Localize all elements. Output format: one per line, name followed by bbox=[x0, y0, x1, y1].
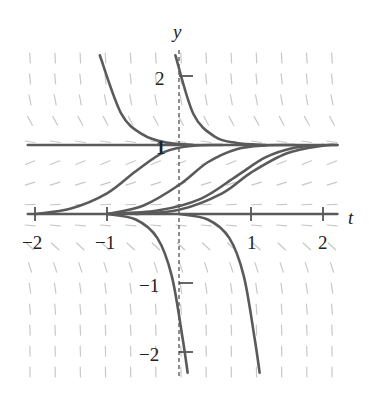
slope-mark bbox=[277, 161, 286, 165]
slope-mark bbox=[278, 243, 285, 250]
x-axis-label: t bbox=[348, 208, 353, 227]
slope-mark bbox=[201, 182, 211, 185]
slope-mark bbox=[205, 95, 207, 105]
slope-mark bbox=[76, 161, 85, 165]
slope-mark bbox=[181, 304, 182, 314]
solution-curve bbox=[136, 145, 338, 214]
slope-mark bbox=[331, 95, 333, 105]
slope-mark bbox=[306, 304, 307, 314]
slope-mark bbox=[28, 263, 31, 273]
slope-mark bbox=[231, 74, 232, 84]
slope-mark bbox=[103, 116, 108, 125]
slope-mark bbox=[176, 141, 186, 142]
slope-mark bbox=[176, 225, 186, 226]
slope-mark bbox=[277, 182, 287, 185]
slope-mark bbox=[230, 263, 233, 273]
slope-mark bbox=[30, 74, 31, 84]
slope-mark bbox=[231, 283, 232, 293]
slope-mark bbox=[230, 95, 232, 105]
slope-field-plot bbox=[0, 0, 369, 396]
slope-mark bbox=[54, 263, 57, 273]
slope-mark bbox=[280, 263, 283, 273]
slope-mark bbox=[279, 116, 284, 125]
slope-mark bbox=[105, 95, 107, 105]
slope-mark bbox=[205, 263, 208, 273]
slope-mark bbox=[252, 225, 262, 226]
slope-mark bbox=[101, 182, 111, 185]
solution-curve bbox=[35, 145, 222, 214]
y-tick-label-neg1: −1 bbox=[139, 276, 159, 295]
slope-mark bbox=[50, 182, 60, 185]
slope-mark bbox=[29, 283, 30, 293]
slope-mark bbox=[53, 116, 58, 125]
x-tick-label-neg1: −1 bbox=[95, 233, 115, 252]
slope-mark bbox=[205, 283, 206, 293]
slope-mark bbox=[130, 74, 131, 84]
slope-mark bbox=[281, 95, 283, 105]
slope-mark bbox=[304, 116, 309, 125]
slope-mark bbox=[226, 225, 236, 226]
slope-mark bbox=[327, 161, 336, 165]
slope-mark bbox=[328, 243, 335, 250]
slope-mark bbox=[256, 74, 257, 84]
slope-mark bbox=[327, 225, 337, 226]
slope-mark bbox=[25, 225, 35, 226]
slope-mark bbox=[277, 225, 287, 226]
slope-mark bbox=[176, 161, 185, 165]
slope-mark bbox=[327, 141, 337, 142]
slope-mark bbox=[130, 95, 132, 105]
slope-mark bbox=[227, 161, 236, 165]
slope-mark bbox=[180, 95, 182, 105]
solution-curves bbox=[28, 55, 338, 372]
slope-mark bbox=[28, 116, 33, 125]
slope-mark bbox=[50, 141, 60, 142]
slope-mark bbox=[126, 182, 136, 185]
slope-mark bbox=[130, 53, 131, 63]
slope-mark bbox=[79, 263, 82, 273]
slope-mark bbox=[130, 283, 131, 293]
slope-mark bbox=[331, 283, 332, 293]
slope-mark bbox=[127, 243, 134, 250]
slope-mark bbox=[54, 95, 56, 105]
slope-mark bbox=[254, 116, 259, 125]
slope-mark bbox=[75, 225, 85, 226]
slope-mark bbox=[281, 53, 282, 63]
slope-mark bbox=[327, 182, 337, 185]
slope-mark bbox=[281, 283, 282, 293]
slope-mark bbox=[231, 304, 232, 314]
slope-mark bbox=[203, 243, 210, 250]
slope-mark bbox=[281, 304, 282, 314]
slope-mark bbox=[101, 161, 110, 165]
y-tick-label-neg2: −2 bbox=[139, 345, 159, 364]
slope-mark bbox=[129, 263, 132, 273]
slope-mark bbox=[206, 53, 207, 63]
slope-mark bbox=[126, 141, 136, 142]
slope-mark bbox=[256, 95, 258, 105]
slope-mark bbox=[78, 116, 83, 125]
slope-mark bbox=[180, 283, 181, 293]
slope-mark bbox=[79, 95, 81, 105]
slope-mark bbox=[130, 304, 131, 314]
slope-mark bbox=[229, 116, 234, 125]
x-tick-label-neg2: −2 bbox=[22, 233, 42, 252]
slope-mark bbox=[255, 263, 258, 273]
slope-mark bbox=[151, 225, 161, 226]
slope-mark bbox=[155, 95, 157, 105]
slope-mark bbox=[25, 141, 35, 142]
slope-mark bbox=[330, 116, 335, 125]
slope-mark bbox=[51, 161, 60, 165]
slope-mark bbox=[206, 74, 207, 84]
y-axis-label: y bbox=[173, 22, 181, 41]
slope-mark bbox=[231, 53, 232, 63]
slope-mark bbox=[302, 141, 312, 142]
x-tick-label-2: 2 bbox=[318, 233, 328, 252]
slope-mark bbox=[155, 304, 156, 314]
slope-mark bbox=[75, 141, 85, 142]
slope-mark bbox=[76, 182, 86, 185]
slope-mark bbox=[306, 74, 307, 84]
slope-mark bbox=[25, 161, 34, 165]
slope-mark bbox=[256, 283, 257, 293]
slope-mark bbox=[30, 53, 31, 63]
slope-mark bbox=[306, 283, 307, 293]
slope-mark bbox=[30, 304, 31, 314]
